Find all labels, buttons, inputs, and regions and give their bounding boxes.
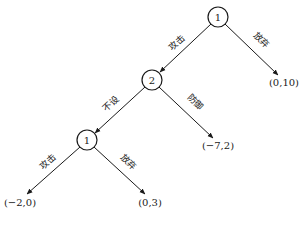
node-label: 1 [215, 12, 221, 23]
decision-node-player2: 2 [142, 70, 162, 90]
edge-n3-leaf4 [94, 147, 145, 194]
edge-label-not-set: 不设 [101, 94, 121, 114]
decision-node-player1-root: 1 [208, 7, 228, 27]
edge-n1-leaf1 [225, 24, 278, 75]
node-label: 2 [149, 75, 155, 86]
payoff-leaf4: (0,3) [138, 197, 162, 208]
edge-n3-leaf3 [27, 147, 80, 194]
decision-node-player1-lower: 1 [77, 130, 97, 150]
payoff-leaf1: (0,10) [269, 77, 299, 88]
edge-label-defend: 防御 [185, 91, 206, 111]
node-label: 1 [84, 135, 90, 146]
game-tree-diagram: 攻击 放弃 不设 防御 攻击 放弃 1 2 1 (0,10) (−7,2) (−… [0, 0, 303, 226]
edge-n2-n3 [95, 87, 145, 133]
payoff-leaf3: (−2,0) [4, 197, 36, 208]
edge-label-attack-2: 攻击 [37, 151, 58, 171]
edge-label-giveup-1: 放弃 [251, 29, 272, 49]
edge-n1-n2 [160, 24, 211, 72]
payoff-leaf2: (−7,2) [202, 140, 234, 151]
edge-label-giveup-2: 放弃 [118, 151, 139, 171]
edge-n2-leaf2 [159, 87, 213, 138]
